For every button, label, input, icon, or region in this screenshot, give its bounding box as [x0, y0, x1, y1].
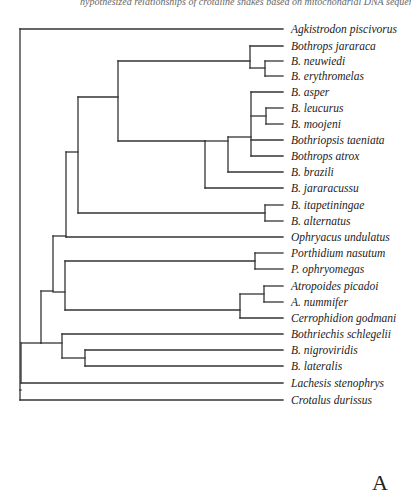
panel-label: A — [372, 471, 388, 495]
leaf-label: B. nigroviridis — [291, 343, 358, 357]
leaf-label: B. neuwiedi — [291, 54, 345, 68]
leaf-label: Crotalus durissus — [291, 393, 372, 407]
leaf-label: Cerrophidion godmani — [291, 311, 396, 325]
leaf-label: Porthidium nasutum — [291, 246, 385, 260]
leaf-label: B. leucurus — [291, 101, 343, 115]
leaf-label: Atropoides picadoi — [291, 279, 378, 293]
leaf-label: B. itapetiningae — [291, 198, 364, 212]
leaf-label: Bothriopsis taeniata — [291, 133, 385, 147]
leaf-label: Bothriechis schlegelii — [291, 327, 391, 341]
leaf-label: B. erythromelas — [291, 69, 364, 83]
leaf-label: B. lateralis — [291, 359, 342, 373]
leaf-label: A. nummifer — [291, 295, 348, 309]
leaf-label: B. alternatus — [291, 214, 350, 228]
leaf-label: B. asper — [291, 85, 329, 99]
leaf-label: P. ophryomegas — [291, 262, 364, 276]
leaf-label: B. moojeni — [291, 117, 341, 131]
leaf-label: B. brazili — [291, 165, 334, 179]
leaf-label: Bothrops atrox — [291, 149, 359, 163]
leaf-label: B. jararacussu — [291, 181, 359, 195]
leaf-label: Agkistrodon piscivorus — [291, 22, 397, 36]
leaf-label: Ophryacus undulatus — [291, 230, 390, 244]
leaf-label: Lachesis stenophrys — [291, 376, 384, 390]
leaf-label: Bothrops jararaca — [291, 39, 376, 53]
